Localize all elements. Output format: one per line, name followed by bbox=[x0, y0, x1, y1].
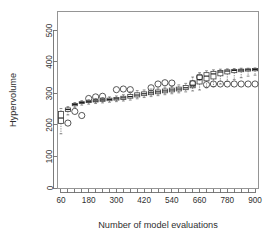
boxplot-group bbox=[135, 91, 140, 99]
box-iqr bbox=[218, 70, 223, 75]
y-axis: 0100200300400500 bbox=[46, 23, 58, 190]
boxplot-group bbox=[217, 69, 223, 87]
boxplot-group bbox=[142, 90, 147, 98]
boxplot-group bbox=[238, 68, 244, 87]
boxplot-group bbox=[183, 83, 188, 92]
box-iqr bbox=[204, 73, 209, 81]
x-axis-title: Number of model evaluations bbox=[98, 220, 218, 230]
x-axis-tick-label: 420 bbox=[137, 196, 151, 205]
box-iqr bbox=[225, 70, 230, 74]
boxplot-group bbox=[120, 86, 126, 101]
boxplot-series bbox=[58, 68, 258, 134]
y-axis-tick-label: 500 bbox=[46, 23, 55, 37]
boxplot-group bbox=[203, 71, 209, 88]
outlier-point bbox=[245, 81, 251, 87]
x-axis-tick-label: 300 bbox=[110, 196, 124, 205]
boxplot-group bbox=[155, 81, 161, 96]
x-axis-tick-label: 660 bbox=[193, 196, 207, 205]
boxplot-group bbox=[99, 93, 105, 103]
outlier-point bbox=[238, 81, 244, 87]
boxplot-figure: 0100200300400500 60180300420540660780900… bbox=[0, 0, 275, 240]
boxplot-group bbox=[127, 87, 133, 101]
boxplot-group bbox=[196, 73, 202, 90]
boxplot-group bbox=[224, 69, 230, 87]
boxplot-group bbox=[210, 70, 216, 87]
x-axis-tick-label: 900 bbox=[248, 196, 262, 205]
boxplot-group bbox=[86, 95, 92, 104]
y-axis-title: Hypervolume bbox=[8, 73, 18, 127]
x-axis-tick-label: 540 bbox=[165, 196, 179, 205]
boxplot-group bbox=[245, 68, 251, 87]
boxplot-group bbox=[107, 97, 112, 102]
y-axis-tick-label: 400 bbox=[46, 55, 55, 69]
boxplot-group bbox=[169, 80, 175, 94]
y-axis-tick-label: 100 bbox=[46, 149, 55, 163]
x-axis: 60180300420540660780900 bbox=[56, 189, 262, 205]
outlier-point bbox=[113, 87, 119, 93]
outlier-point bbox=[169, 80, 175, 86]
boxplot-group bbox=[79, 101, 85, 119]
hypervolume-boxplot-chart: 0100200300400500 60180300420540660780900… bbox=[0, 0, 275, 240]
boxplot-group bbox=[113, 87, 119, 102]
boxplot-group bbox=[252, 68, 258, 87]
boxplot-group bbox=[58, 109, 63, 134]
outlier-point bbox=[79, 112, 85, 118]
outlier-point bbox=[72, 108, 78, 114]
y-axis-tick-label: 0 bbox=[46, 185, 55, 190]
x-axis-tick-label: 60 bbox=[56, 196, 66, 205]
box-iqr bbox=[58, 111, 63, 123]
boxplot-group bbox=[162, 80, 168, 95]
boxplot-group bbox=[65, 107, 71, 126]
boxplot-group bbox=[190, 77, 196, 91]
outlier-point bbox=[65, 120, 71, 126]
x-axis-tick-label: 780 bbox=[220, 196, 234, 205]
outlier-point bbox=[120, 86, 126, 92]
boxplot-group bbox=[231, 69, 237, 88]
box-iqr bbox=[211, 71, 216, 79]
boxplot-group bbox=[72, 103, 78, 115]
boxplot-group bbox=[176, 85, 181, 93]
x-axis-tick-label: 180 bbox=[82, 196, 96, 205]
outlier-point bbox=[162, 80, 168, 86]
y-axis-tick-label: 200 bbox=[46, 118, 55, 132]
outlier-point bbox=[252, 81, 258, 87]
boxplot-group bbox=[148, 85, 154, 97]
outlier-point bbox=[231, 81, 237, 87]
outlier-point bbox=[155, 81, 161, 87]
y-axis-tick-label: 300 bbox=[46, 86, 55, 100]
outlier-point bbox=[224, 81, 230, 87]
boxplot-group bbox=[93, 94, 99, 104]
